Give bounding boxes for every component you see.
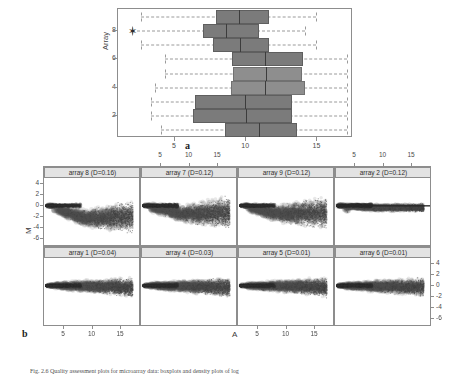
boxplot-row-array-1 — [118, 123, 353, 137]
panel-b-x-tick-15: 15 — [113, 330, 127, 337]
ma-panel-array-4: array 4 (D=0.03) — [140, 246, 237, 326]
ma-panel-strip-label: array 6 (D=0.01) — [335, 247, 431, 258]
panel-a-y-axis-label: Array — [101, 32, 110, 50]
ma-panel-array-2: array 2 (D=0.12) — [334, 166, 431, 246]
boxplot-row-array-3 — [118, 95, 353, 109]
ma-panel-array-5: array 5 (D=0.01) — [237, 246, 334, 326]
boxplot-median-line — [246, 109, 247, 123]
boxplot-whisker-cap — [316, 41, 317, 50]
panel-a-x-tick-15: 15 — [309, 142, 323, 149]
panel-b-y-tickmark — [40, 216, 43, 217]
panel-b-y-tick-right-2: 2 — [436, 270, 449, 277]
ma-panel-plot-area — [335, 178, 431, 246]
boxplot-box — [193, 109, 291, 123]
boxplot-outlier-star-icon: ✶ — [128, 26, 137, 37]
panel-a-letter: a — [185, 140, 190, 151]
panel-b-letter: b — [22, 328, 28, 339]
boxplot-box — [231, 81, 305, 95]
boxplot-median-line — [239, 10, 240, 24]
panel-b-x-tickmark — [383, 163, 384, 166]
boxplot-whisker-cap — [151, 111, 152, 120]
boxplot-row-array-7 — [118, 38, 353, 52]
boxplot-whisker-cap — [347, 55, 348, 64]
boxplot-whisker-cap — [141, 13, 142, 22]
panel-b-x-tick-5: 5 — [56, 330, 70, 337]
boxplot-whisker-cap — [161, 125, 162, 134]
boxplot-median-line — [240, 38, 241, 52]
panel-b-y-tickmark — [40, 238, 43, 239]
ma-panel-strip-label: array 8 (D=0.16) — [44, 167, 140, 178]
figure-caption: Fig. 2.6 Quality assessment plots for mi… — [30, 367, 455, 381]
panel-a-plot-frame: ✶ — [117, 8, 352, 137]
boxplot-box — [203, 24, 259, 38]
boxplot-whisker-cap — [347, 69, 348, 78]
panel-b-x-tickmark — [257, 326, 258, 329]
ma-panel-plot-area — [141, 178, 237, 246]
panel-a-x-tick-10: 10 — [238, 142, 252, 149]
boxplot-row-array-9 — [118, 10, 353, 24]
boxplot-whisker-cap — [165, 69, 166, 78]
ma-panel-plot-area — [238, 258, 334, 326]
ma-panel-array-8: array 8 (D=0.16) — [43, 166, 140, 246]
panel-b-x-tick-5: 5 — [250, 330, 264, 337]
boxplot-whisker-cap — [141, 41, 142, 50]
ma-panel-strip-label: array 9 (D=0.12) — [238, 167, 334, 178]
panel-b-y-tick-0: 0 — [26, 201, 39, 208]
panel-b-x-tickmark — [314, 326, 315, 329]
panel-b-y-tickmark — [40, 183, 43, 184]
panel-b-y-tick-right--2: -2 — [436, 292, 449, 299]
panel-a-x-tickmark — [245, 137, 246, 141]
panel-b-x-tickmark — [63, 326, 64, 329]
ma-panel-strip-label: array 1 (D=0.04) — [44, 247, 140, 258]
boxplot-row-array-5 — [118, 67, 353, 81]
panel-a-x-tickmark — [316, 137, 317, 141]
ma-panel-array-9: array 9 (D=0.12) — [237, 166, 334, 246]
panel-b-y-tick-2: 2 — [26, 190, 39, 197]
boxplot-row-array-2 — [118, 109, 353, 123]
ma-panel-plot-area — [44, 178, 140, 246]
panel-b-x-tick-15: 15 — [307, 330, 321, 337]
boxplot-whisker-cap — [151, 97, 152, 106]
boxplot-whisker-cap — [347, 83, 348, 92]
boxplot-box — [216, 10, 269, 24]
boxplot-box — [232, 52, 303, 66]
panel-a-x-tickmark — [174, 137, 175, 141]
panel-b-y-tickmark-right — [431, 296, 434, 297]
boxplot-whisker-cap — [316, 13, 317, 22]
panel-b-y-tick-right--4: -4 — [436, 303, 449, 310]
boxplot-box — [233, 67, 301, 81]
boxplot-median-line — [245, 95, 246, 109]
boxplot-box — [195, 95, 292, 109]
panel-b-y-tickmark — [40, 227, 43, 228]
boxplot-median-line — [259, 123, 260, 137]
panel-b-y-tick--6: -6 — [26, 234, 39, 241]
ma-panel-strip-label: array 4 (D=0.03) — [141, 247, 237, 258]
ma-panel-array-7: array 7 (D=0.12) — [140, 166, 237, 246]
panel-b-x-tickmark — [160, 163, 161, 166]
panel-b-y-tickmark-right — [431, 318, 434, 319]
boxplot-median-line — [265, 52, 266, 66]
panel-a-boxplot: Array 2468 ✶ 51015 a — [0, 0, 461, 158]
boxplot-whisker-cap — [347, 111, 348, 120]
panel-a-x-tick-5: 5 — [167, 142, 181, 149]
panel-b-x-tickmark — [411, 163, 412, 166]
panel-b-y-tickmark-right — [431, 263, 434, 264]
panel-b-x-tickmark — [354, 163, 355, 166]
panel-b-x-tick-10: 10 — [376, 151, 390, 158]
panel-b-y-tick--4: -4 — [26, 223, 39, 230]
ma-panel-strip-label: array 7 (D=0.12) — [141, 167, 237, 178]
panel-b-x-tickmark — [120, 326, 121, 329]
boxplot-whisker-cap — [347, 97, 348, 106]
panel-b-y-tickmark-right — [431, 307, 434, 308]
boxplot-whisker-cap — [305, 27, 306, 36]
panel-b-x-tick-15: 15 — [404, 151, 418, 158]
panel-b-x-tickmark — [286, 326, 287, 329]
ma-panel-plot-area — [141, 258, 237, 326]
panel-b-y-tickmark-right — [431, 285, 434, 286]
boxplot-row-array-6 — [118, 52, 353, 66]
panel-b-y-tickmark-right — [431, 274, 434, 275]
ma-panel-plot-area — [238, 178, 334, 246]
panel-b-ma-plots: array 8 (D=0.16)array 7 (D=0.12)array 9 … — [0, 160, 461, 342]
boxplot-row-array-8: ✶ — [118, 24, 353, 38]
ma-panel-plot-area — [335, 258, 431, 326]
